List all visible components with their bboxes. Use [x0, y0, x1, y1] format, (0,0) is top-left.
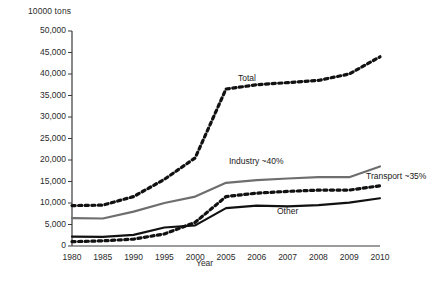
series-line-transport — [72, 186, 380, 242]
y-axis-tick-label: 5,000 — [20, 219, 66, 229]
x-axis-tick-label: 2010 — [363, 252, 397, 262]
x-axis-tick-label: 1995 — [147, 252, 181, 262]
y-axis-tick-label: 35,000 — [20, 90, 66, 100]
series-line-other — [72, 198, 380, 237]
x-axis-tick-label: 1985 — [86, 252, 120, 262]
y-axis-tick-label: 50,000 — [20, 25, 66, 35]
y-axis-tick-label: 45,000 — [20, 47, 66, 57]
x-axis-tick-label: 2007 — [271, 252, 305, 262]
x-axis-tick-label: 2000 — [178, 252, 212, 262]
line-chart: 10000 tons Year 50,00045,00040,00035,000… — [0, 0, 440, 291]
x-axis-tick-label: 1990 — [117, 252, 151, 262]
y-axis-tick-label: 30,000 — [20, 111, 66, 121]
series-lines — [72, 57, 380, 242]
x-axis-tick-label: 2006 — [240, 252, 274, 262]
y-axis-tick-label: 15,000 — [20, 176, 66, 186]
series-label-other: Other — [277, 206, 298, 216]
series-line-industry — [72, 166, 380, 218]
y-axis-unit-label: 10000 tons — [28, 6, 71, 16]
series-label-transport: Transport ~35% — [366, 171, 426, 181]
plot-area — [0, 0, 440, 291]
axes — [68, 31, 380, 246]
series-label-total: Total — [238, 73, 256, 83]
series-label-industry: Industry ~40% — [229, 156, 284, 166]
x-axis-tick-label: 2005 — [209, 252, 243, 262]
x-axis-tick-label: 1980 — [55, 252, 89, 262]
y-axis-tick-label: 20,000 — [20, 154, 66, 164]
y-axis-tick-label: 25,000 — [20, 133, 66, 143]
y-axis-tick-label: 40,000 — [20, 68, 66, 78]
y-axis-tick-label: 10,000 — [20, 197, 66, 207]
x-axis-tick-label: 2008 — [301, 252, 335, 262]
x-axis-tick-label: 2009 — [332, 252, 366, 262]
y-axis-tick-label: 0 — [20, 240, 66, 250]
